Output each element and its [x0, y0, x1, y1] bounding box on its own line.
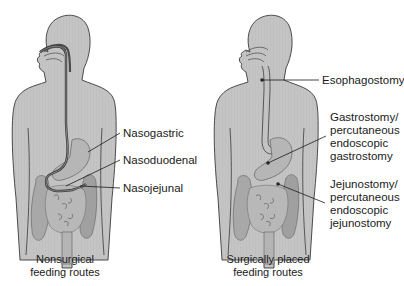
label-nasogastric: Nasogastric [123, 127, 184, 140]
caption-surgical: Surgically placed feeding routes [213, 253, 323, 279]
label-nasojejunal: Nasojejunal [123, 182, 183, 195]
caption-nonsurgical: Nonsurgical feeding routes [20, 253, 110, 279]
label-esophagostomy: Esophagostomy [322, 74, 404, 87]
label-jejunostomy: Jejunostomy/ percutaneous endoscopic jej… [330, 178, 400, 230]
label-gastrostomy: Gastrostomy/ percutaneous endoscopic gas… [330, 111, 400, 163]
label-nasoduodenal: Nasoduodenal [123, 154, 197, 167]
